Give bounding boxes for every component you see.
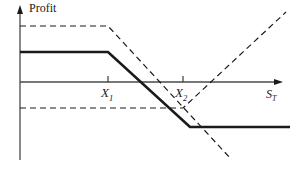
x-axis-arrow-icon: [274, 79, 283, 85]
tick-label-x1-subscript: 1: [109, 93, 113, 103]
x-axis-label: ST: [266, 88, 276, 103]
y-axis-label: Profit: [29, 2, 56, 14]
x-axis-label-subscript: T: [272, 94, 276, 103]
tick-label-x2-subscript: 2: [183, 93, 187, 103]
tick-label-x1-base: X: [101, 85, 109, 100]
y-axis-arrow-icon: [17, 5, 23, 14]
plot-canvas: [0, 0, 296, 171]
tick-label-x2-base: X: [175, 85, 183, 100]
series-combined-payoff: [20, 52, 290, 127]
tick-label-x1: X1: [101, 86, 113, 102]
tick-label-x2: X2: [175, 86, 187, 102]
payoff-diagram-figure: Profit ST X1 X2: [0, 0, 296, 171]
